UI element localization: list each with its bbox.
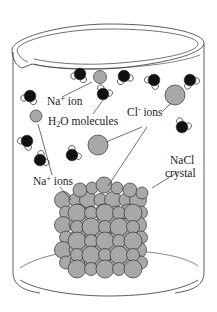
cl-ion-in-crystal (68, 232, 86, 250)
oxygen-atom (19, 133, 35, 149)
water-molecule (180, 71, 201, 90)
label-cl-ions: Cl- ions (127, 105, 163, 118)
na-ion-in-crystal (71, 221, 84, 234)
label-nacl: NaCl (170, 154, 194, 166)
crystal-top-ion (123, 183, 137, 197)
beaker-bottom-front (20, 280, 198, 296)
oxygen-atom (146, 72, 162, 88)
crystal-top-ion (136, 187, 148, 199)
nacl-crystal (55, 177, 149, 278)
water-molecule (172, 117, 193, 136)
cl-ion-in-crystal (110, 246, 128, 264)
cl-ion-in-crystal (96, 260, 114, 278)
cl-ion-in-crystal (110, 218, 128, 236)
na-ion-in-crystal (99, 249, 112, 262)
cl-ion-in-crystal (124, 232, 142, 250)
cl-ion-in-crystal (124, 204, 142, 222)
na-ion-in-crystal (99, 221, 112, 234)
na-ion (30, 110, 42, 122)
cl-ion-in-crystal (68, 204, 86, 222)
leader-cl-ion-1 (162, 103, 171, 112)
na-ion-in-crystal (85, 263, 98, 276)
leader-cl-ion-2 (106, 127, 142, 142)
na-ion-in-crystal (85, 207, 98, 220)
beaker-wall-left (13, 52, 40, 293)
na-ion-in-crystal (113, 263, 126, 276)
na-ion (94, 71, 107, 84)
water-molecule (93, 84, 114, 103)
cl-ion-in-crystal (82, 246, 100, 264)
label-na-ions: Na+ ions (33, 174, 74, 187)
na-ion-in-crystal (85, 235, 98, 248)
leader-na-ions-1 (38, 124, 52, 175)
na-ion-in-crystal (127, 249, 140, 262)
cl-ion-in-crystal (82, 218, 100, 236)
water-molecule (16, 131, 37, 152)
cl-ion (88, 135, 108, 155)
cl-ion-in-crystal (68, 260, 86, 278)
crystal-top-ion (73, 183, 87, 197)
oxygen-atom (64, 147, 80, 163)
label-h2o-molecules: H2O molecules (48, 115, 119, 129)
crystal-top-ion (96, 177, 112, 193)
cl-ion-in-crystal (96, 232, 114, 250)
label-na-ion: Na+ ion (47, 94, 83, 107)
leader-cl-ion-3 (108, 127, 147, 186)
beaker-rim (12, 24, 204, 69)
cl-ion-in-crystal (96, 204, 114, 222)
na-ion-in-crystal (113, 207, 126, 220)
label-crystal: crystal (165, 167, 196, 180)
crystal-top-ion (111, 182, 123, 194)
leader-h2o (93, 100, 103, 114)
water-molecule (20, 88, 40, 106)
na-ion-in-crystal (127, 221, 140, 234)
na-ion-in-crystal (113, 235, 126, 248)
water-molecule (62, 144, 83, 165)
water-molecule (114, 68, 134, 86)
nacl-dissolution-diagram: Na+ ion H2O molecules Cl- ions Na+ ions … (0, 0, 217, 312)
na-ion-in-crystal (71, 249, 84, 262)
water-molecule (31, 149, 50, 170)
labels: Na+ ion H2O molecules Cl- ions Na+ ions … (33, 94, 196, 187)
cl-ion (165, 85, 185, 105)
cl-ion-in-crystal (124, 260, 142, 278)
water-molecule (143, 70, 164, 91)
